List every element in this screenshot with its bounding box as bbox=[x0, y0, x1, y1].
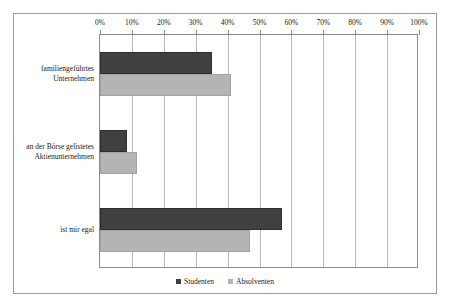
x-axis-tick-label: 20% bbox=[157, 18, 171, 27]
bar-group: ist mir egal bbox=[100, 208, 417, 252]
legend-label: Absolventen bbox=[236, 277, 274, 286]
x-axis-tick bbox=[260, 30, 261, 35]
x-axis-tick bbox=[196, 30, 197, 35]
bar-studenten bbox=[100, 130, 127, 152]
x-axis-tick-label: 70% bbox=[316, 18, 330, 27]
x-axis-tick-label: 50% bbox=[253, 18, 267, 27]
x-axis-tick bbox=[164, 30, 165, 35]
x-axis-tick-label: 0% bbox=[95, 18, 105, 27]
y-axis-category-label: familiengeführtesUnternehmen bbox=[0, 64, 100, 84]
bar-studenten bbox=[100, 208, 282, 230]
x-axis-tick bbox=[323, 30, 324, 35]
plot-area: 0%10%20%30%40%50%60%70%80%90%100% famili… bbox=[99, 34, 418, 268]
legend-label: Studenten bbox=[184, 277, 214, 286]
y-axis-category-label: ist mir egal bbox=[0, 225, 100, 235]
bar-group: an der Börse gelistetesAktienunternehmen bbox=[100, 130, 417, 174]
x-axis-tick bbox=[291, 30, 292, 35]
chart-legend: StudentenAbsolventen bbox=[14, 277, 436, 286]
legend-item[interactable]: Studenten bbox=[176, 277, 214, 286]
x-axis-tick-label: 10% bbox=[125, 18, 139, 27]
x-axis-tick-label: 30% bbox=[189, 18, 203, 27]
x-axis-tick-label: 40% bbox=[221, 18, 235, 27]
legend-item[interactable]: Absolventen bbox=[228, 277, 274, 286]
bar-absolventen bbox=[100, 152, 137, 174]
y-axis-category-label: an der Börse gelistetesAktienunternehmen bbox=[0, 142, 100, 162]
x-axis-tick bbox=[387, 30, 388, 35]
chart-frame: 0%10%20%30%40%50%60%70%80%90%100% famili… bbox=[13, 13, 437, 294]
x-axis-tick-label: 60% bbox=[285, 18, 299, 27]
x-axis-tick-label: 80% bbox=[348, 18, 362, 27]
bar-studenten bbox=[100, 52, 212, 74]
x-axis-tick bbox=[355, 30, 356, 35]
x-axis-tick bbox=[419, 30, 420, 35]
x-axis-tick bbox=[228, 30, 229, 35]
x-axis-tick bbox=[132, 30, 133, 35]
legend-swatch-icon bbox=[228, 279, 233, 284]
x-axis-tick-label: 90% bbox=[380, 18, 394, 27]
x-axis-tick-label: 100% bbox=[410, 18, 428, 27]
bar-absolventen bbox=[100, 74, 231, 96]
bar-absolventen bbox=[100, 230, 250, 252]
bar-group: familiengeführtesUnternehmen bbox=[100, 52, 417, 96]
x-axis-tick bbox=[100, 30, 101, 35]
legend-swatch-icon bbox=[176, 279, 181, 284]
